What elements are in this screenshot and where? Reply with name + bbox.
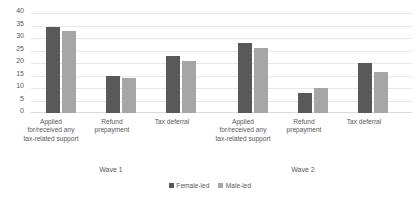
bar-female-led <box>166 56 180 114</box>
y-tick-40: 40 <box>16 7 24 15</box>
gridline-15 <box>31 76 412 77</box>
bar-male-led <box>314 88 328 113</box>
bar-male-led <box>182 61 196 114</box>
gridline-20 <box>31 63 412 64</box>
y-tick-5: 5 <box>20 95 24 103</box>
gridline-5 <box>31 101 412 102</box>
wave-label-1: Wave 1 <box>51 165 171 174</box>
bar-female-led <box>46 27 60 113</box>
y-tick-15: 15 <box>16 70 24 78</box>
bar-male-led <box>254 48 268 113</box>
bar-group-wave2-refund <box>297 13 329 113</box>
category-label-wave2-deferral: Tax deferral <box>337 118 391 126</box>
category-label-wave1-refund: Refund prepayment <box>85 118 139 135</box>
bar-group-wave1-applied <box>45 13 77 113</box>
legend: Female-led Male-led <box>0 182 420 189</box>
bar-group-wave1-deferral <box>165 13 197 113</box>
legend-item-female-led[interactable]: Female-led <box>169 182 209 189</box>
y-tick-20: 20 <box>16 57 24 65</box>
legend-swatch-icon <box>218 183 223 188</box>
gridline-10 <box>31 88 412 89</box>
gridline-30 <box>31 38 412 39</box>
bar-female-led <box>238 43 252 113</box>
y-tick-30: 30 <box>16 32 24 40</box>
axis-baseline <box>31 112 412 113</box>
gridline-25 <box>31 51 412 52</box>
gridline-35 <box>31 26 412 27</box>
bar-chart: 40 35 30 25 20 15 10 5 0 <box>0 0 420 203</box>
bar-group-wave2-applied <box>237 13 269 113</box>
wave-label-2: Wave 2 <box>243 165 363 174</box>
bar-female-led <box>358 63 372 113</box>
y-tick-10: 10 <box>16 82 24 90</box>
y-axis: 40 35 30 25 20 15 10 5 0 <box>0 7 28 119</box>
category-label-wave2-applied: Applied for/received any tax-related sup… <box>215 118 271 143</box>
category-label-wave1-deferral: Tax deferral <box>145 118 199 126</box>
bar-group-wave1-refund <box>105 13 137 113</box>
bar-group-wave2-deferral <box>357 13 389 113</box>
legend-label-female-led: Female-led <box>176 182 209 189</box>
legend-item-male-led[interactable]: Male-led <box>218 182 251 189</box>
y-tick-35: 35 <box>16 20 24 28</box>
bar-male-led <box>374 72 388 113</box>
legend-label-male-led: Male-led <box>226 182 251 189</box>
plot-area <box>31 13 412 113</box>
gridline-40 <box>31 13 412 14</box>
y-tick-25: 25 <box>16 45 24 53</box>
legend-swatch-icon <box>169 183 174 188</box>
bar-female-led <box>106 76 120 114</box>
y-tick-0: 0 <box>20 107 24 115</box>
category-label-wave2-refund: Refund prepayment <box>277 118 331 135</box>
bar-male-led <box>62 31 76 114</box>
category-label-wave1-applied: Applied for/received any tax-related sup… <box>23 118 79 143</box>
bar-female-led <box>298 93 312 113</box>
bar-male-led <box>122 78 136 113</box>
